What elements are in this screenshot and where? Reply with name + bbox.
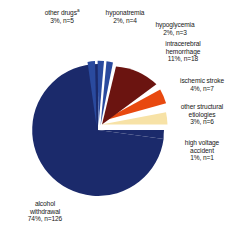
slice-label-alcohol-value: 74%, n=126: [28, 215, 62, 223]
slice-label-other-structural-value: 3%, n=6: [181, 118, 223, 126]
slice-label-hyponatremia-line1: hyponatremia: [106, 9, 145, 17]
slice-label-other-drugs-line1: other drugsa: [45, 9, 80, 17]
slice-label-other-structural-etiologies: other structural etiologies 3%, n=6: [181, 103, 223, 126]
slice-label-hypoglycemia-line1: hypoglycemia: [155, 21, 194, 29]
slice-label-high-voltage-accident: high voltage accident 1%, n=1: [185, 139, 219, 162]
slice-label-alcohol-line1: alcohol: [28, 200, 62, 208]
slice-label-ischemic-stroke: ischemic stroke 4%, n=7: [180, 77, 224, 92]
slice-label-high-voltage-line1: high voltage: [185, 139, 219, 147]
slice-label-intracerebral-hemorrhage: intracerebral hemorrhage 11%, n=18: [165, 40, 200, 63]
slice-hyponatremia: [98, 61, 104, 126]
slice-label-high-voltage-line2: accident: [185, 147, 219, 155]
slice-label-alcohol-line2: withdrawal: [28, 208, 62, 216]
slice-label-hypoglycemia-value: 2%, n=3: [155, 29, 194, 37]
slice-label-ich-value: 11%, n=18: [165, 55, 200, 63]
slice-label-ischemic-value: 4%, n=7: [180, 85, 224, 93]
slice-label-hyponatremia: hyponatremia 2%, n=4: [106, 9, 145, 24]
slice-label-hypoglycemia: hypoglycemia 2%, n=3: [155, 21, 194, 36]
slice-label-other-drugs-value: 3%, n=5: [45, 17, 80, 25]
slice-label-other-structural-line1: other structural: [181, 103, 223, 111]
slice-label-ich-line1: intracerebral: [165, 40, 200, 48]
slice-label-other-structural-line2: etiologies: [181, 111, 223, 119]
slice-label-other-drugs: other drugsa 3%, n=5: [45, 9, 80, 24]
slice-label-ischemic-line1: ischemic stroke: [180, 77, 224, 85]
slice-label-ich-line2: hemorrhage: [165, 48, 200, 56]
footnote-marker-a: a: [77, 8, 79, 13]
slice-label-hyponatremia-value: 2%, n=4: [106, 17, 145, 25]
slice-label-high-voltage-value: 1%, n=1: [185, 154, 219, 162]
slice-label-alcohol-withdrawal: alcohol withdrawal 74%, n=126: [28, 200, 62, 223]
pie-slices: [32, 61, 167, 196]
pie-chart-figure: other drugsa 3%, n=5 hyponatremia 2%, n=…: [0, 0, 244, 232]
